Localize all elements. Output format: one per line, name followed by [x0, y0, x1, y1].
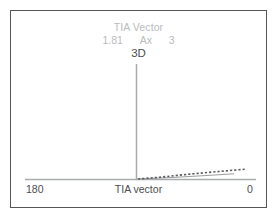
subtitle-axis-value: 3 — [169, 35, 175, 46]
chart-title: TIA Vector — [0, 22, 277, 33]
x-axis-label: TIA vector — [0, 184, 277, 195]
x-axis-tick-right: 0 — [247, 184, 253, 195]
subtitle-value: 1.81 — [102, 35, 122, 46]
subtitle-axis-label: Ax — [140, 35, 152, 46]
chart-subtitle: 1.81 Ax 3 — [0, 35, 277, 46]
tia-vector-figure: TIA Vector 1.81 Ax 3 3D 180 TIA vector 0 — [0, 0, 277, 219]
peak-label: 3D — [0, 48, 277, 60]
